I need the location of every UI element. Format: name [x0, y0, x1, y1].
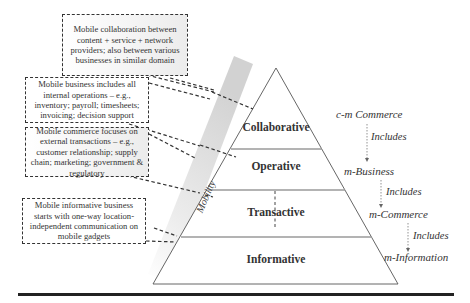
bottom-rule — [18, 293, 454, 296]
collaborative-note: Mobile collaboration between content + s… — [62, 14, 188, 76]
connector-collaborative-2 — [170, 78, 214, 90]
informative-note-text: Mobile informative business starts with … — [27, 200, 141, 242]
level-cm-commerce: c-m Commerce — [336, 108, 402, 120]
diagram-canvas: Mobility Mobile collaboration between co… — [0, 0, 470, 303]
business-note: Mobile business includes all internal op… — [25, 77, 149, 123]
commerce-note: Mobile commerce focuses on external tran… — [25, 127, 149, 177]
level-m-commerce: m-Commerce — [369, 208, 428, 220]
commerce-note-text: Mobile commerce focuses on external tran… — [30, 126, 144, 178]
layer-transactive: Transactive — [216, 206, 336, 218]
layer-informative: Informative — [216, 253, 336, 265]
connector-business-1 — [149, 83, 210, 99]
informative-note: Mobile informative business starts with … — [22, 198, 146, 244]
collaborative-note-text: Mobile collaboration between content + s… — [67, 24, 183, 66]
level-m-business: m-Business — [344, 165, 394, 177]
includes-label-3: Includes — [413, 230, 449, 241]
layer-collaborative: Collaborative — [216, 121, 336, 133]
level-m-information: m-Information — [384, 251, 448, 263]
includes-label-2: Includes — [386, 186, 422, 197]
connector-collaborative-1 — [147, 75, 214, 92]
layer-operative: Operative — [216, 160, 336, 172]
includes-label-1: Includes — [371, 131, 407, 142]
business-note-text: Mobile business includes all internal op… — [30, 79, 144, 121]
